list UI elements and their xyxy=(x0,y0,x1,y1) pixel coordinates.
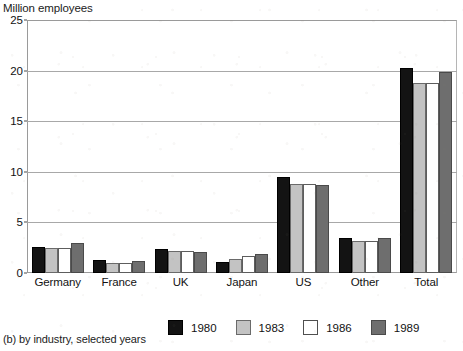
bar xyxy=(426,83,439,273)
x-axis-label: Japan xyxy=(211,276,272,288)
legend-label: 1989 xyxy=(394,322,420,334)
bar xyxy=(242,256,255,273)
bar xyxy=(119,263,132,273)
bar xyxy=(365,241,378,273)
legend-label: 1983 xyxy=(259,322,285,334)
chart-plot-area: 0510152025 xyxy=(27,20,457,273)
legend-swatch xyxy=(236,320,251,335)
legend-label: 1986 xyxy=(326,322,352,334)
bar xyxy=(71,243,84,273)
bar xyxy=(132,261,145,273)
bar-group xyxy=(396,20,457,273)
bar xyxy=(194,252,207,273)
bar xyxy=(339,238,352,273)
bar xyxy=(93,260,106,273)
y-tick-label: 25 xyxy=(10,14,23,26)
x-axis-label: US xyxy=(273,276,334,288)
bar xyxy=(378,238,391,273)
bar xyxy=(216,262,229,273)
y-tick-label: 5 xyxy=(17,216,23,228)
bar xyxy=(58,248,71,273)
y-tick-label: 20 xyxy=(10,65,23,77)
legend-item: 1989 xyxy=(371,320,420,335)
bar xyxy=(106,263,119,273)
bar xyxy=(155,249,168,273)
y-tick-label: 0 xyxy=(17,267,23,279)
bar-group xyxy=(27,20,88,273)
legend-item: 1986 xyxy=(303,320,352,335)
legend-swatch xyxy=(371,320,386,335)
bar xyxy=(255,254,268,273)
bar xyxy=(229,259,242,273)
x-axis-labels: GermanyFranceUKJapanUSOtherTotal xyxy=(27,276,457,288)
bar-groups xyxy=(27,20,457,273)
x-axis-label: UK xyxy=(150,276,211,288)
legend-swatch xyxy=(303,320,318,335)
bar xyxy=(316,185,329,273)
bar xyxy=(303,184,316,273)
legend-label: 1980 xyxy=(191,322,217,334)
figure-caption: (b) by industry, selected years xyxy=(3,333,146,345)
bar xyxy=(277,177,290,273)
x-axis-label: Total xyxy=(396,276,457,288)
y-axis-title: Million employees xyxy=(3,2,93,14)
y-tick-label: 10 xyxy=(10,166,23,178)
bar xyxy=(439,72,452,273)
x-axis-label: Other xyxy=(334,276,395,288)
bar xyxy=(32,247,45,273)
bar-group xyxy=(273,20,334,273)
bar-group xyxy=(150,20,211,273)
chart-legend: 1980198319861989 xyxy=(168,320,419,335)
x-axis-label: France xyxy=(88,276,149,288)
bar xyxy=(400,68,413,273)
bar xyxy=(45,248,58,273)
bar xyxy=(290,184,303,273)
legend-swatch xyxy=(168,320,183,335)
bar-group xyxy=(211,20,272,273)
y-tick-label: 15 xyxy=(10,115,23,127)
bar xyxy=(352,241,365,273)
bar xyxy=(168,251,181,273)
x-axis-label: Germany xyxy=(27,276,88,288)
bar-group xyxy=(334,20,395,273)
bar xyxy=(413,83,426,273)
legend-item: 1983 xyxy=(236,320,285,335)
bar xyxy=(181,251,194,273)
legend-item: 1980 xyxy=(168,320,217,335)
bar-group xyxy=(88,20,149,273)
